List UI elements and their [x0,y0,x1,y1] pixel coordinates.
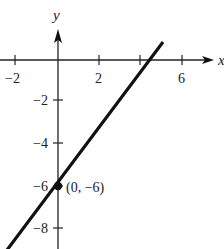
y-axis-label: y [51,7,60,23]
y-tick-label: −8 [33,221,48,236]
x-axis-label: x [217,52,224,68]
y-intercept-point [54,182,62,190]
x-tick-label: 6 [178,71,185,86]
graph-line [7,42,163,249]
x-tick-label: −2 [5,71,20,86]
y-tick-label: −6 [33,179,48,194]
y-tick-label: −2 [33,93,48,108]
x-tick-label: 2 [95,71,102,86]
y-tick-label: −4 [33,136,48,151]
coordinate-plane: x y −2 2 6 −2 −4 −6 −8 (0, −6) [0,0,224,249]
point-label: (0, −6) [66,180,105,196]
